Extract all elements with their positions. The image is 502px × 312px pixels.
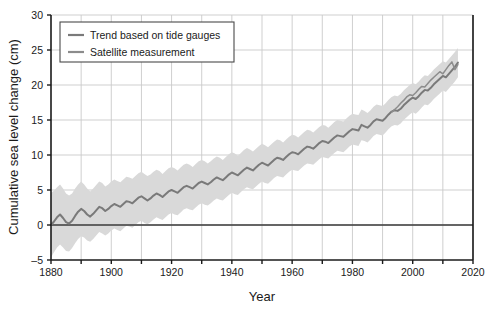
y-tick-label: 0 <box>37 219 43 231</box>
x-axis-tick-labels: 18801900192019401960198020002020 <box>39 266 485 278</box>
y-axis-title: Cumulative sea level change (cm) <box>6 39 21 235</box>
x-tick-label: 1940 <box>220 266 244 278</box>
x-axis-title: Year <box>249 289 276 304</box>
chart-legend: Trend based on tide gauges Satellite mea… <box>60 22 234 62</box>
uncertainty-band-area <box>51 48 458 257</box>
y-axis-tick-labels: –5051015202530 <box>31 9 43 266</box>
y-tick-label: –5 <box>31 254 43 266</box>
x-tick-label: 1980 <box>341 266 365 278</box>
x-tick-label: 2020 <box>461 266 485 278</box>
y-tick-label: 25 <box>31 44 43 56</box>
x-tick-label: 1900 <box>100 266 124 278</box>
y-tick-label: 30 <box>31 9 43 21</box>
chart-canvas: 18801900192019401960198020002020 –505101… <box>0 0 502 312</box>
y-tick-label: 5 <box>37 184 43 196</box>
x-tick-label: 1880 <box>39 266 63 278</box>
y-tick-label: 15 <box>31 114 43 126</box>
sea-level-chart-figure: 18801900192019401960198020002020 –505101… <box>0 0 502 312</box>
y-tick-label: 10 <box>31 149 43 161</box>
y-tick-label: 20 <box>31 79 43 91</box>
legend-label-satellite: Satellite measurement <box>90 46 195 58</box>
uncertainty-band <box>51 48 458 257</box>
x-tick-label: 2000 <box>401 266 425 278</box>
legend-label-trend: Trend based on tide gauges <box>90 29 220 41</box>
x-tick-label: 1920 <box>160 266 184 278</box>
x-tick-label: 1960 <box>280 266 304 278</box>
